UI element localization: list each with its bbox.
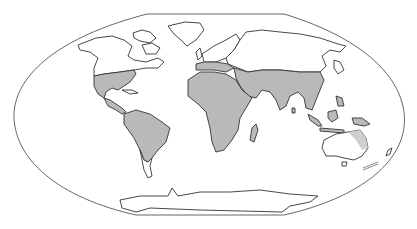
map-canvas <box>0 0 417 229</box>
world-map <box>0 0 417 229</box>
tasmania <box>342 162 347 166</box>
sri-lanka <box>292 108 295 113</box>
